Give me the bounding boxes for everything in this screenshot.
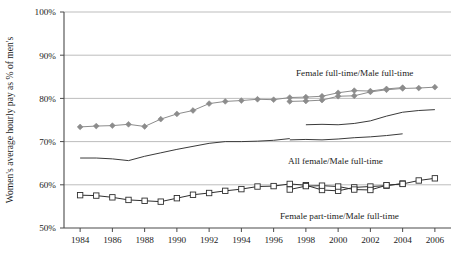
data-point-marker — [432, 176, 437, 181]
data-point-marker — [416, 85, 422, 91]
data-point-marker — [255, 96, 261, 102]
line-chart: 50%60%70%80%90%100% 19841986198819901992… — [0, 0, 459, 264]
y-axis-tick-labels: 50%60%70%80%90%100% — [35, 7, 64, 233]
data-point-marker — [255, 184, 260, 189]
y-tick-label-80: 80% — [39, 94, 56, 104]
data-point-marker — [303, 98, 309, 104]
data-point-marker — [77, 192, 82, 197]
y-tick-label-90: 90% — [39, 51, 56, 61]
data-point-marker — [142, 124, 148, 130]
series-1 — [287, 84, 438, 104]
series-4 — [306, 110, 435, 125]
y-tick-label-60: 60% — [39, 180, 56, 190]
x-tick-label-1984: 1984 — [71, 235, 90, 245]
data-point-marker — [174, 111, 180, 117]
series-3 — [290, 134, 403, 140]
data-point-marker — [287, 181, 292, 186]
x-tick-label-1988: 1988 — [135, 235, 154, 245]
data-point-marker — [287, 99, 293, 105]
data-point-marker — [77, 124, 83, 130]
data-point-marker — [222, 99, 228, 105]
data-point-marker — [335, 184, 340, 189]
data-point-marker — [110, 195, 115, 200]
y-axis-title: Women's average hourly pay as % of men's — [4, 36, 15, 203]
data-point-marker — [190, 192, 195, 197]
data-point-marker — [93, 123, 99, 129]
series-line-3 — [290, 134, 403, 140]
series-line-1 — [290, 87, 435, 101]
data-point-marker — [368, 187, 373, 192]
x-tick-label-2002: 2002 — [361, 235, 380, 245]
x-axis-tick-labels: 1984198619881990199219941996199820002002… — [71, 235, 445, 245]
series-annotation-2: Female part-time/Male full-time — [280, 211, 399, 221]
series-6 — [287, 176, 438, 193]
data-point-marker — [416, 178, 421, 183]
x-tick-label-1998: 1998 — [297, 235, 316, 245]
x-axis-ticks — [80, 228, 435, 232]
y-tick-label-70: 70% — [39, 137, 56, 147]
x-tick-label-2006: 2006 — [426, 235, 445, 245]
data-point-marker — [158, 116, 164, 122]
data-point-marker — [400, 181, 405, 186]
data-point-marker — [142, 198, 147, 203]
series-annotation-1: All female/Male full-time — [288, 156, 383, 166]
x-tick-label-1994: 1994 — [232, 235, 251, 245]
data-point-marker — [223, 188, 228, 193]
series-annotation-0: Female full-time/Male full-time — [296, 68, 413, 78]
data-point-marker — [303, 183, 308, 188]
data-point-marker — [352, 187, 357, 192]
data-point-marker — [190, 108, 196, 114]
data-point-marker — [351, 93, 357, 99]
data-point-marker — [126, 121, 132, 127]
data-point-marker — [239, 186, 244, 191]
series-line-4 — [306, 110, 435, 125]
x-tick-label-2000: 2000 — [329, 235, 348, 245]
data-point-marker — [158, 199, 163, 204]
x-tick-label-1986: 1986 — [103, 235, 122, 245]
x-tick-label-1990: 1990 — [168, 235, 187, 245]
x-tick-label-1992: 1992 — [200, 235, 219, 245]
x-tick-label-2004: 2004 — [393, 235, 412, 245]
data-point-marker — [174, 195, 179, 200]
series-layer — [77, 84, 438, 204]
series-annotations: Female full-time/Male full-timeAll femal… — [280, 68, 413, 221]
data-point-marker — [384, 183, 389, 188]
axes — [64, 12, 451, 228]
y-axis-title-text: Women's average hourly pay as % of men's — [4, 36, 15, 203]
data-point-marker — [432, 84, 438, 90]
data-point-marker — [319, 183, 324, 188]
data-point-marker — [126, 197, 131, 202]
x-tick-label-1996: 1996 — [264, 235, 283, 245]
series-line-6 — [290, 178, 435, 190]
data-point-marker — [206, 190, 211, 195]
y-tick-label-100: 100% — [35, 7, 57, 17]
data-point-marker — [94, 193, 99, 198]
data-point-marker — [271, 183, 276, 188]
data-point-marker — [206, 101, 212, 107]
data-point-marker — [287, 187, 292, 192]
figure-container: 50%60%70%80%90%100% 19841986198819901992… — [0, 0, 459, 264]
data-point-marker — [109, 123, 115, 129]
y-tick-label-50: 50% — [39, 223, 56, 233]
data-point-marker — [271, 97, 277, 103]
